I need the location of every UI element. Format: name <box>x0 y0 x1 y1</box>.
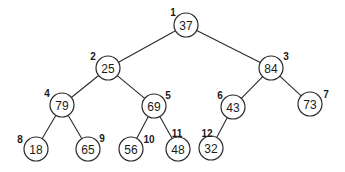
node-index-label: 1 <box>170 7 176 18</box>
tree-edge <box>117 76 144 99</box>
node-index-label: 7 <box>323 89 329 100</box>
node-value: 56 <box>124 143 138 157</box>
tree-node: 436 <box>217 90 245 120</box>
tree-edge <box>280 76 301 96</box>
tree-nodes: 371252843794695436737188659561048113212 <box>17 7 329 162</box>
tree-node: 252 <box>90 51 120 81</box>
node-value: 79 <box>55 99 69 113</box>
node-index-label: 9 <box>99 133 105 144</box>
node-value: 43 <box>226 101 240 115</box>
binary-tree-diagram: 371252843794695436737188659561048113212 <box>0 0 345 172</box>
node-value: 32 <box>204 142 218 156</box>
tree-edge <box>68 115 82 138</box>
tree-node: 371 <box>170 7 198 38</box>
node-value: 48 <box>171 143 185 157</box>
node-index-label: 10 <box>143 134 155 145</box>
node-index-label: 5 <box>165 90 171 101</box>
tree-node: 695 <box>142 90 171 119</box>
node-value: 65 <box>81 143 95 157</box>
node-index-label: 6 <box>217 90 223 101</box>
node-index-label: 8 <box>17 134 23 145</box>
node-index-label: 12 <box>201 128 213 139</box>
tree-edge <box>71 76 98 98</box>
node-value: 18 <box>29 143 43 157</box>
tree-edge <box>119 31 176 62</box>
tree-edge <box>42 115 56 138</box>
tree-edges <box>42 30 301 138</box>
tree-node: 794 <box>44 88 74 118</box>
node-value: 25 <box>101 62 115 76</box>
node-index-label: 4 <box>44 88 50 99</box>
tree-node: 188 <box>17 134 48 162</box>
node-index-label: 11 <box>172 128 183 139</box>
tree-edge <box>197 30 261 62</box>
node-value: 37 <box>179 19 193 33</box>
tree-edge <box>241 77 262 99</box>
node-index-label: 2 <box>90 51 96 62</box>
node-value: 73 <box>303 98 317 112</box>
tree-node: 843 <box>259 51 289 81</box>
tree-node: 4811 <box>166 128 190 162</box>
tree-edge <box>217 118 228 138</box>
tree-edge <box>160 116 172 138</box>
tree-node: 737 <box>298 89 329 117</box>
node-index-label: 3 <box>283 51 289 62</box>
node-value: 84 <box>264 62 278 76</box>
node-value: 69 <box>147 100 161 114</box>
